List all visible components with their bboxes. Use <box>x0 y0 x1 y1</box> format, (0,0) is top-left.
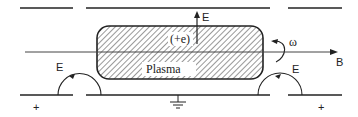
plus-left-label: + <box>33 101 39 113</box>
b-label: B <box>336 56 343 68</box>
arrow-up-icon <box>194 11 200 18</box>
e-left-label: E <box>56 61 63 73</box>
ground-icon <box>170 95 186 108</box>
plasma-trap-diagram: Plasma (+e) E E E B ω + + <box>0 0 358 117</box>
omega-label: ω <box>289 35 297 49</box>
b-arrow-icon <box>330 49 338 55</box>
charge-label: (+e) <box>170 32 190 46</box>
rotation-arrow-head-icon <box>271 39 278 44</box>
e-right-label: E <box>292 63 299 75</box>
e-field-left-arc <box>58 74 101 95</box>
e-up-label: E <box>202 11 209 23</box>
plus-right-label: + <box>318 101 324 113</box>
arrow-right-arc-icon <box>275 74 281 79</box>
plasma-label: Plasma <box>146 62 181 76</box>
rotation-arrow <box>273 41 285 62</box>
